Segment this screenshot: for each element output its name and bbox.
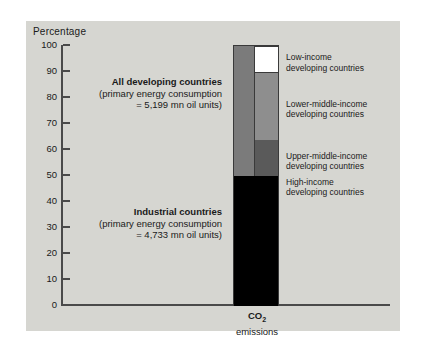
y-tick-label-60: 60 [31,143,57,154]
y-tick-label-70: 70 [31,117,57,128]
bar-segment-low-income [254,46,278,72]
y-tick-70 [63,122,70,124]
y-tick-label-30: 30 [31,221,57,232]
bar-segment-industrial [234,176,278,306]
annotation-industrial-line3: = 4,733 mn oil units) [99,229,222,241]
y-tick-label-80: 80 [31,91,57,102]
y-tick-label-50: 50 [31,169,57,180]
y-tick-label-100: 100 [31,39,57,50]
annotation-developing-heading: All developing countries [99,76,222,88]
annotation-developing-line3: = 5,199 mn oil units) [99,99,222,111]
y-tick-100 [63,44,70,46]
y-tick-80 [63,96,70,98]
legend-item-4-line1: High-income [286,177,364,188]
bar-segment-developing-aggregate [234,46,254,176]
y-tick-60 [63,148,70,150]
y-tick-0 [63,304,70,306]
legend-item-2: Lower-middle-incomedeveloping countries [286,99,367,120]
y-tick-label-10: 10 [31,273,57,284]
legend-item-1-line2: developing countries [286,63,364,74]
annotation-industrial: Industrial countries (primary energy con… [99,206,222,241]
legend-item-3-line1: Upper-middle-income [286,151,367,162]
y-tick-label-20: 20 [31,247,57,258]
y-tick-label-90: 90 [31,65,57,76]
annotation-developing: All developing countries (primary energy… [99,76,222,111]
x-axis-category-line1: CO2 [213,310,301,326]
y-tick-label-40: 40 [31,195,57,206]
y-tick-10 [63,278,70,280]
bar-segment-high-income [254,140,278,176]
legend-item-4-line2: developing countries [286,187,364,198]
y-tick-50 [63,174,70,176]
annotation-industrial-heading: Industrial countries [99,206,222,218]
chart-figure: Percentage 1009080706050403020100 CO2 em… [0,0,422,347]
y-tick-label-0: 0 [31,299,57,310]
y-tick-90 [63,70,70,72]
co2-subscript: 2 [262,316,266,323]
annotation-developing-line2: (primary energy consumption [99,88,222,100]
stacked-bar [233,45,279,306]
y-tick-40 [63,200,70,202]
y-tick-20 [63,252,70,254]
x-axis-category-label: CO2 emissions [213,310,301,338]
legend-item-4: High-incomedeveloping countries [286,177,364,198]
legend-item-2-line2: developing countries [286,109,367,120]
x-axis-line [61,304,390,306]
legend-item-1: Low-incomedeveloping countries [286,52,364,73]
bar-column-divider [254,46,255,176]
legend-item-2-line1: Lower-middle-income [286,99,367,110]
legend-item-1-line1: Low-income [286,52,364,63]
x-axis-category-line2: emissions [213,326,301,338]
bar-segment-upper-middle-income [254,72,278,140]
legend-item-3: Upper-middle-incomedeveloping countries [286,151,367,172]
annotation-industrial-line2: (primary energy consumption [99,218,222,230]
y-axis-title: Percentage [33,26,86,37]
y-tick-30 [63,226,70,228]
legend-item-3-line2: developing countries [286,161,367,172]
